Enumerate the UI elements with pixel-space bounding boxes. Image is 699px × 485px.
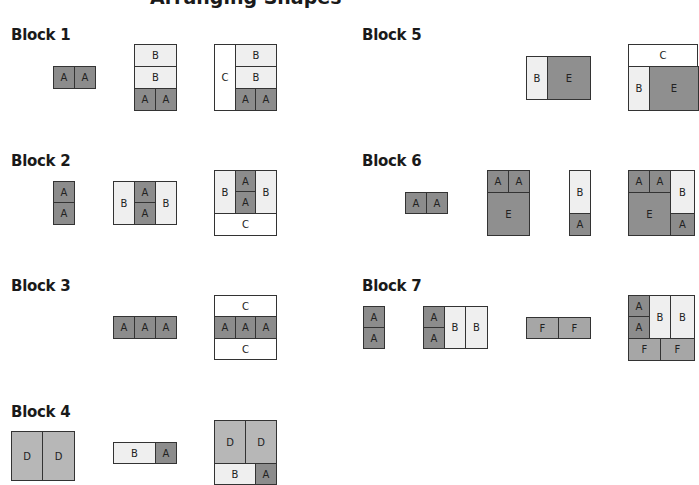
block-title: Block 2 xyxy=(11,152,70,170)
shape-cell-b: B xyxy=(235,66,277,89)
shape-cell-b: B xyxy=(113,181,135,225)
shape-cell-e: E xyxy=(487,192,530,236)
shape-cell-a: A xyxy=(363,306,385,328)
shape-cell-d: D xyxy=(42,431,75,481)
block-title: Block 6 xyxy=(362,152,421,170)
figure-title: Arranging Shapes xyxy=(150,0,341,8)
shape-cell-d: D xyxy=(214,420,246,464)
shape-cell-a: A xyxy=(74,66,96,89)
shape-cell-c: C xyxy=(214,213,277,236)
shape-cell-a: A xyxy=(628,316,650,339)
shape-cell-b: B xyxy=(628,66,650,111)
shape-cell-a: A xyxy=(628,295,650,317)
shape-cell-a: A xyxy=(235,191,256,214)
shape-cell-a: A xyxy=(628,170,650,193)
shape-cell-a: A xyxy=(134,181,156,203)
block-title: Block 7 xyxy=(362,277,421,295)
shape-cell-b: B xyxy=(569,170,591,214)
shape-cell-b: B xyxy=(214,170,236,214)
block-title: Block 3 xyxy=(11,277,70,295)
shape-cell-a: A xyxy=(155,442,177,464)
shape-cell-b: B xyxy=(214,463,256,485)
block-title: Block 5 xyxy=(362,26,421,44)
shape-cell-a: A xyxy=(423,306,445,328)
shape-cell-a: A xyxy=(134,88,156,111)
shape-cell-d: D xyxy=(245,420,277,464)
shape-cell-a: A xyxy=(235,316,256,339)
shape-cell-e: E xyxy=(547,56,591,100)
shape-cell-a: A xyxy=(255,88,277,111)
shape-cell-d: D xyxy=(11,431,43,481)
shape-cell-a: A xyxy=(426,192,448,214)
shape-cell-b: B xyxy=(649,295,671,339)
shape-cell-a: A xyxy=(235,88,256,111)
shape-cell-a: A xyxy=(255,463,277,485)
shape-cell-e: E xyxy=(628,192,671,236)
shape-cell-a: A xyxy=(53,181,75,203)
shape-cell-a: A xyxy=(255,316,277,339)
shape-cell-a: A xyxy=(155,316,177,339)
shape-cell-b: B xyxy=(670,295,695,339)
shape-cell-c: C xyxy=(214,338,277,360)
shape-cell-a: A xyxy=(134,202,156,225)
shape-cell-a: A xyxy=(423,327,445,349)
shape-cell-c: C xyxy=(628,44,698,67)
shape-cell-f: F xyxy=(628,338,661,361)
shape-cell-a: A xyxy=(569,213,591,236)
shape-cell-a: A xyxy=(113,316,135,339)
shape-cell-a: A xyxy=(155,88,177,111)
shape-cell-a: A xyxy=(649,170,671,193)
shape-cell-b: B xyxy=(444,306,466,349)
shape-cell-c: C xyxy=(214,295,277,317)
shape-cell-b: B xyxy=(465,306,488,349)
shape-cell-a: A xyxy=(363,327,385,349)
shape-cell-a: A xyxy=(508,170,530,193)
shape-cell-b: B xyxy=(255,170,277,214)
shape-cell-a: A xyxy=(235,170,256,192)
shape-cell-b: B xyxy=(670,170,695,214)
shape-cell-a: A xyxy=(405,192,427,214)
shape-cell-a: A xyxy=(487,170,509,193)
shape-cell-f: F xyxy=(660,338,695,361)
shape-cell-f: F xyxy=(558,317,591,339)
shape-cell-f: F xyxy=(526,317,559,339)
shape-cell-c: C xyxy=(214,44,236,111)
shape-cell-b: B xyxy=(134,66,177,89)
shape-cell-b: B xyxy=(155,181,177,225)
shape-cell-b: B xyxy=(113,442,156,464)
shape-cell-b: B xyxy=(526,56,548,100)
shape-cell-a: A xyxy=(53,66,75,89)
shape-cell-b: B xyxy=(235,44,277,67)
block-title: Block 1 xyxy=(11,26,70,44)
block-title: Block 4 xyxy=(11,403,70,421)
shape-cell-b: B xyxy=(134,44,177,67)
shape-cell-a: A xyxy=(214,316,236,339)
shape-cell-a: A xyxy=(670,213,695,236)
shape-cell-e: E xyxy=(649,66,699,111)
shape-cell-a: A xyxy=(53,202,75,225)
shape-cell-a: A xyxy=(134,316,156,339)
